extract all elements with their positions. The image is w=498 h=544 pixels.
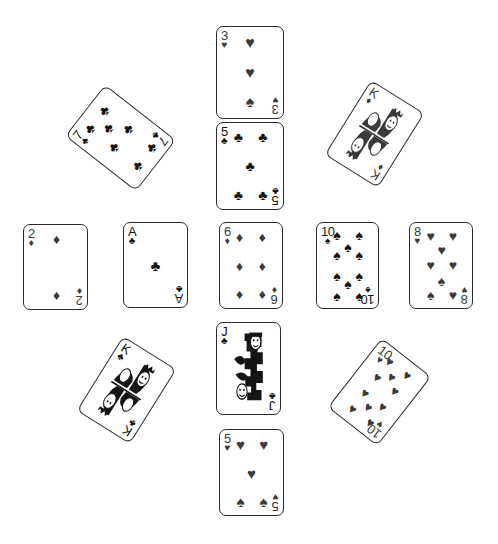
card-pip-suit-icon: ♦ <box>53 232 60 246</box>
card-pip-area: ♣ <box>128 227 183 303</box>
card-pip-suit-icon: ♣ <box>96 103 113 119</box>
card-pip-suit-icon: ♥ <box>449 258 457 272</box>
card-pip-suit-icon: ♥ <box>247 465 256 480</box>
card-pip-suit-icon: ♠ <box>237 493 245 508</box>
card-pip-suit-icon: ♥ <box>437 243 445 257</box>
card-table-canvas: 3♥3♥♥♥♠5♣5♣♣♣♣♣♣7♣7♣♣♣♣♣♣♣♣K♦K♦ 2♦2♦♦♦A♣… <box>0 0 498 544</box>
card-pip-suit-icon: ♠ <box>260 493 268 508</box>
card-pip-suit-icon: ♦ <box>259 230 266 244</box>
card-pip-suit-icon: ♠ <box>333 289 340 303</box>
card-pip-suit-icon: ♥ <box>259 437 268 452</box>
playing-card-ten-of-spades[interactable]: 10♠10♠♠♠♠♠♠♠♠♠♠♠ <box>316 222 379 309</box>
card-pip-area: ♣♣♣♣♣♣♣ <box>72 92 169 185</box>
court-card-illustration <box>340 94 410 175</box>
card-pip-suit-icon: ♣ <box>258 188 267 202</box>
card-pip-area: ♥♥♥♠♠ <box>224 434 279 511</box>
card-pip-suit-icon: ♣ <box>245 159 254 173</box>
card-pip-suit-icon: ♣ <box>119 121 136 137</box>
card-pip-suit-icon: ♠ <box>344 277 351 291</box>
card-pip-suit-icon: ♠ <box>355 228 362 242</box>
card-pip-suit-icon: ♦ <box>259 287 266 301</box>
card-pip-area: ♠♠♠♠♠♠♠♠♠♠ <box>321 227 374 304</box>
card-pip-suit-icon: ♥ <box>449 229 457 243</box>
card-corner-suit-icon: ♣ <box>221 337 228 345</box>
card-pip-area: ♣♣♣♣♣ <box>221 127 279 205</box>
card-pip-suit-icon: ♣ <box>128 157 145 173</box>
card-pip-suit-icon: ♦ <box>53 288 60 302</box>
playing-card-seven-of-clubs[interactable]: 7♣7♣♣♣♣♣♣♣♣ <box>65 85 176 192</box>
card-pip-suit-icon: ♥ <box>375 400 389 415</box>
card-pip-suit-icon: ♥ <box>400 368 414 383</box>
card-corner-suit-icon: ♣ <box>269 392 276 400</box>
card-pip-suit-icon: ♣ <box>258 130 267 144</box>
card-pip-suit-icon: ♠ <box>438 274 445 288</box>
card-pip-suit-icon: ♥ <box>383 354 397 369</box>
playing-card-six-of-diamonds[interactable]: 6♦6♦♦♦♦♦♦♦ <box>219 222 283 309</box>
card-pip-area: ♥♥♥♥♥♠♠♥ <box>414 227 468 304</box>
card-pip-suit-icon: ♣ <box>151 258 161 273</box>
card-pip-suit-icon: ♥ <box>427 258 435 272</box>
card-pip-suit-icon: ♣ <box>105 139 122 155</box>
card-pip-suit-icon: ♦ <box>236 259 243 273</box>
card-pip-suit-icon: ♥ <box>370 370 384 385</box>
card-pip-suit-icon: ♠ <box>333 269 340 283</box>
card-pip-suit-icon: ♠ <box>355 248 362 262</box>
playing-card-ten-of-hearts[interactable]: 10♥10♥♥♥♥♥♥♥♥♥♥♥ <box>328 338 432 446</box>
card-pip-area: ♥♥♠ <box>221 31 279 114</box>
playing-card-king-of-diamonds[interactable]: K♦K♦ <box>324 80 424 188</box>
card-pip-suit-icon: ♠ <box>333 248 340 262</box>
card-pip-suit-icon: ♣ <box>234 188 243 202</box>
card-pip-area: ♥♥♥♥♥♥♥♥♥♥ <box>335 345 425 439</box>
card-pip-suit-icon: ♠ <box>355 269 362 283</box>
card-pip-suit-icon: ♣ <box>82 121 99 137</box>
card-pip-suit-icon: ♣ <box>234 130 243 144</box>
card-pip-suit-icon: ♠ <box>427 288 434 302</box>
card-corner-index-tl: J♣ <box>221 326 228 345</box>
card-pip-suit-icon: ♦ <box>236 287 243 301</box>
playing-card-two-of-diamonds[interactable]: 2♦2♦♦♦ <box>23 224 88 310</box>
card-pip-suit-icon: ♥ <box>245 65 255 81</box>
card-pip-suit-icon: ♠ <box>344 240 351 254</box>
card-pip-suit-icon: ♠ <box>333 228 340 242</box>
card-pip-suit-icon: ♥ <box>236 437 245 452</box>
card-corner-index-br: J♣ <box>269 392 276 411</box>
card-pip-suit-icon: ♦ <box>259 259 266 273</box>
playing-card-king-of-clubs[interactable]: K♣K♣ <box>76 336 176 444</box>
card-pip-suit-icon: ♣ <box>143 139 160 155</box>
card-pip-area: ♦♦♦♦♦♦ <box>224 227 278 304</box>
playing-card-three-of-hearts[interactable]: 3♥3♥♥♥♠ <box>216 26 284 119</box>
playing-card-eight-of-hearts[interactable]: 8♥8♥♥♥♥♥♥♠♠♥ <box>409 222 473 309</box>
card-pip-suit-icon: ♥ <box>427 229 435 243</box>
card-pip-suit-icon: ♥ <box>363 416 377 431</box>
card-pip-suit-icon: ♥ <box>345 402 359 417</box>
court-card-illustration <box>229 330 268 407</box>
playing-card-ace-of-clubs[interactable]: A♣A♣♣ <box>123 222 188 308</box>
playing-card-five-of-clubs[interactable]: 5♣5♣♣♣♣♣♣ <box>216 122 284 210</box>
playing-card-jack-of-clubs[interactable]: J♣J♣ <box>216 322 281 415</box>
card-pip-suit-icon: ♣ <box>100 120 117 136</box>
card-pip-suit-icon: ♠ <box>355 289 362 303</box>
card-pip-suit-icon: ♥ <box>245 35 255 51</box>
card-pip-area: ♦♦ <box>28 229 83 305</box>
card-pip-suit-icon: ♠ <box>246 94 255 110</box>
court-card-illustration <box>92 350 162 431</box>
card-pip-suit-icon: ♥ <box>449 288 457 302</box>
card-pip-suit-icon: ♦ <box>236 230 243 244</box>
playing-card-five-of-hearts[interactable]: 5♥5♥♥♥♥♠♠ <box>219 429 284 516</box>
